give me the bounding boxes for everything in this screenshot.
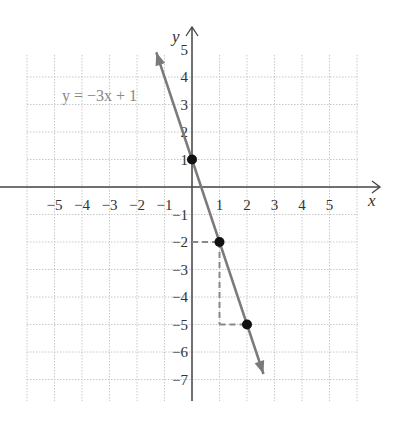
svg-text:−5: −5	[47, 197, 63, 213]
svg-text:−2: −2	[129, 197, 145, 213]
svg-text:−1: −1	[157, 197, 173, 213]
svg-text:2: 2	[243, 197, 251, 213]
svg-text:−1: −1	[172, 207, 188, 223]
y-axis-label: y	[170, 27, 180, 46]
svg-text:5: 5	[326, 197, 334, 213]
svg-text:1: 1	[181, 152, 189, 168]
svg-text:3: 3	[271, 197, 279, 213]
svg-text:−3: −3	[172, 262, 188, 278]
svg-text:−6: −6	[172, 344, 188, 360]
svg-text:−7: −7	[172, 372, 188, 388]
slope-guides	[192, 242, 247, 325]
svg-text:4: 4	[181, 69, 189, 85]
x-axis-label: x	[367, 191, 376, 210]
svg-text:−3: −3	[102, 197, 118, 213]
svg-text:1: 1	[216, 197, 224, 213]
svg-text:4: 4	[298, 197, 306, 213]
svg-text:3: 3	[181, 97, 189, 113]
svg-text:−5: −5	[172, 317, 188, 333]
svg-text:−4: −4	[74, 197, 90, 213]
svg-text:−4: −4	[172, 289, 188, 305]
svg-text:−2: −2	[172, 234, 188, 250]
svg-text:5: 5	[181, 42, 189, 58]
equation-label: y = −3x + 1	[62, 87, 137, 105]
linear-function-graph: −5−4−3−2−11234554321−1−2−3−4−5−6−7 y = −…	[0, 0, 397, 425]
